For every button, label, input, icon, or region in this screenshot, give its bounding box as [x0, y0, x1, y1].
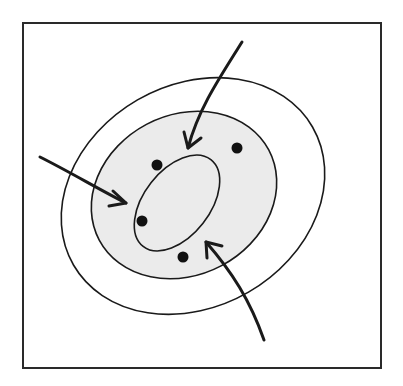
data-point — [152, 160, 163, 171]
data-point — [137, 216, 148, 227]
data-point — [178, 252, 189, 263]
data-point — [232, 143, 243, 154]
contour-diagram — [0, 0, 403, 386]
